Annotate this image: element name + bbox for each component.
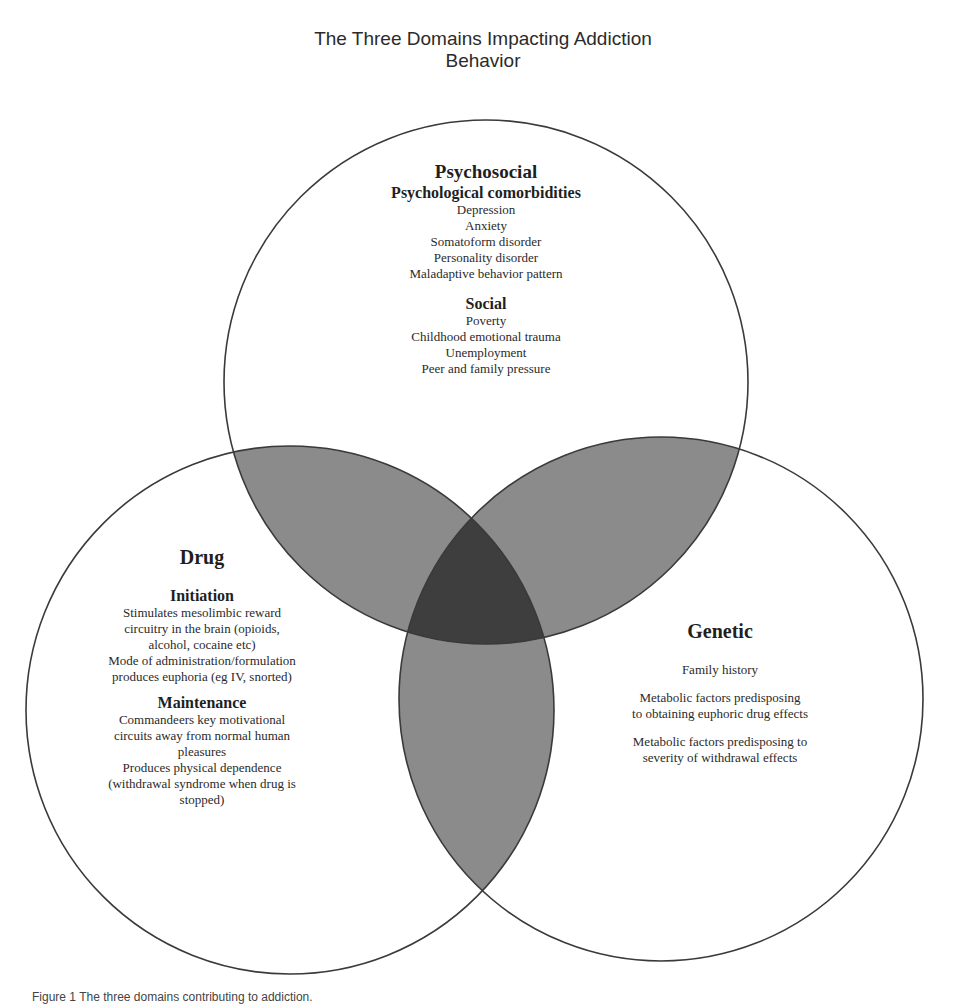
list-item: Poverty <box>336 313 636 329</box>
list-item: Commandeers key motivational <box>72 712 332 728</box>
psychosocial-text: Psychosocial Psychological comorbidities… <box>336 161 636 377</box>
list-item: Unemployment <box>336 345 636 361</box>
list-item: severity of withdrawal effects <box>600 750 840 766</box>
list-item: Somatoform disorder <box>336 234 636 250</box>
list-item: Produces physical dependence <box>72 760 332 776</box>
psychological-comorbidities-heading: Psychological comorbidities <box>336 183 636 202</box>
list-item: to obtaining euphoric drug effects <box>600 706 840 722</box>
genetic-text: Genetic Family history Metabolic factors… <box>600 620 840 766</box>
list-item: Family history <box>600 662 840 678</box>
social-heading: Social <box>336 294 636 313</box>
genetic-heading: Genetic <box>600 620 840 642</box>
list-item: Childhood emotional trauma <box>336 329 636 345</box>
figure-caption: Figure 1 The three domains contributing … <box>32 990 313 1004</box>
list-item: Mode of administration/formulation <box>72 653 332 669</box>
list-item: Anxiety <box>336 218 636 234</box>
list-item: pleasures <box>72 744 332 760</box>
list-item: Personality disorder <box>336 250 636 266</box>
list-item: alcohol, cocaine etc) <box>72 637 332 653</box>
list-item: produces euphoria (eg IV, snorted) <box>72 669 332 685</box>
list-item: circuitry in the brain (opioids, <box>72 621 332 637</box>
list-item: Depression <box>336 202 636 218</box>
list-item: Metabolic factors predisposing to <box>600 734 840 750</box>
psychosocial-heading: Psychosocial <box>336 161 636 183</box>
list-item: Metabolic factors predisposing <box>600 690 840 706</box>
list-item: stopped) <box>72 792 332 808</box>
drug-text: Drug Initiation Stimulates mesolimbic re… <box>72 546 332 808</box>
initiation-heading: Initiation <box>72 586 332 605</box>
list-item: Peer and family pressure <box>336 361 636 377</box>
list-item: Maladaptive behavior pattern <box>336 266 636 282</box>
list-item: circuits away from normal human <box>72 728 332 744</box>
drug-heading: Drug <box>72 546 332 568</box>
list-item: Stimulates mesolimbic reward <box>72 605 332 621</box>
maintenance-heading: Maintenance <box>72 693 332 712</box>
list-item: (withdrawal syndrome when drug is <box>72 776 332 792</box>
